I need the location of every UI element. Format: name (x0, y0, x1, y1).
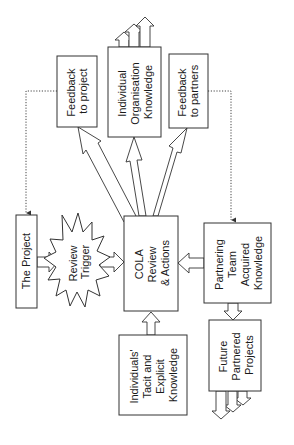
node-individuals-tacit-explicit-knowledge: Individuals' Tacit and Explicit Knowledg… (119, 335, 187, 415)
org-knowledge-output-arrows (115, 17, 154, 47)
node-label: Feedback to project (65, 65, 89, 116)
cola-to-feedback-project-arrow (78, 127, 136, 222)
dotted-edge-feedback-to-partners (208, 91, 231, 220)
node-feedback-to-project: Feedback to project (57, 56, 97, 127)
future-projects-output-arrows (212, 391, 251, 419)
node-individual-organisation-knowledge: Individual Organisation Knowledge (108, 47, 161, 137)
partnering-to-cola-arrow (178, 253, 204, 273)
individuals-to-cola-arrow (142, 312, 160, 335)
node-label: Feedback to partners (176, 64, 200, 117)
node-label: The Project (20, 233, 32, 289)
node-review-trigger: Review Trigger (44, 213, 110, 307)
node-cola-review-actions: COLA Review & Actions (124, 216, 178, 311)
partnering-to-future-arrow (224, 303, 242, 320)
node-label: Individual Organisation Knowledge (116, 59, 154, 124)
node-label: Review Trigger (67, 242, 91, 281)
node-partnering-team-knowledge: Partnering Team Acquired Knowledge (204, 223, 271, 303)
cola-diagram: Feedback to project Individual Organisat… (0, 0, 294, 445)
node-label: Partnering Team Acquired Knowledge (213, 236, 264, 290)
cola-to-feedback-partners-arrow (153, 128, 187, 216)
dotted-edge-feedback-to-project (26, 91, 57, 213)
node-feedback-to-partners: Feedback to partners (169, 54, 208, 128)
node-the-project: The Project (16, 215, 37, 308)
node-future-partnered-projects: Future Partnered Projects (209, 320, 261, 391)
